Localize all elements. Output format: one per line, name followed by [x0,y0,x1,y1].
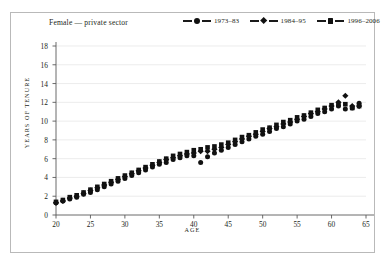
data-point-square [178,152,183,157]
data-point-square [336,102,341,107]
data-point-square [129,170,134,175]
y-tick-label: 14 [28,79,48,88]
data-point-square [150,162,155,167]
y-tick-label: 6 [28,154,48,163]
data-point-square [309,110,314,115]
data-point-square [343,102,348,107]
data-point-square [143,165,148,170]
data-point-square [322,106,327,111]
x-tick-label: 65 [354,220,378,229]
x-tick-label: 20 [44,220,68,229]
data-point-square [247,133,252,138]
data-point-square [61,198,66,203]
scatter-plot [11,13,376,254]
y-tick-label: 12 [28,98,48,107]
data-point-circle [198,160,203,165]
data-point-square [191,148,196,153]
y-tick-label: 16 [28,60,48,69]
data-point-square [95,185,100,190]
data-point-square [274,123,279,128]
y-tick-label: 4 [28,173,48,182]
data-point-square [54,200,59,205]
data-point-square [157,159,162,164]
data-point-square [288,118,293,123]
data-point-square [267,125,272,130]
data-point-diamond [342,93,348,99]
y-tick-label: 0 [28,211,48,220]
data-point-square [329,103,334,108]
x-tick-label: 30 [113,220,137,229]
data-point-square [350,106,355,111]
data-point-square [109,179,114,184]
data-point-square [198,147,203,152]
data-point-square [302,113,307,118]
plot-area-wrapper: YEARS OF TENURE AGE 02468101214161820253… [11,13,374,252]
data-point-square [164,156,169,161]
x-tick-label: 60 [320,220,344,229]
data-point-square [212,144,217,149]
data-point-square [226,140,231,145]
data-point-square [260,127,265,132]
data-point-square [116,176,121,181]
data-point-square [123,173,128,178]
data-point-square [74,193,79,198]
x-tick-label: 35 [147,220,171,229]
data-point-square [171,154,176,159]
x-tick-label: 55 [285,220,309,229]
data-point-circle [205,154,210,159]
data-point-square [205,145,210,150]
data-point-square [88,187,93,192]
data-point-square [295,115,300,120]
data-point-square [102,182,107,187]
y-tick-label: 8 [28,135,48,144]
y-tick-label: 18 [28,42,48,51]
y-tick-label: 2 [28,192,48,201]
data-point-square [136,168,141,173]
data-point-square [185,150,190,155]
data-point-square [281,120,286,125]
x-tick-label: 45 [216,220,240,229]
data-point-square [81,190,86,195]
data-point-circle [343,106,348,111]
x-tick-label: 50 [251,220,275,229]
data-point-square [253,130,258,135]
data-point-square [67,195,72,200]
y-tick-label: 10 [28,117,48,126]
x-tick-label: 40 [182,220,206,229]
data-point-square [240,135,245,140]
data-point-square [315,108,320,113]
data-point-square [233,138,238,143]
data-point-square [357,104,362,109]
x-tick-label: 25 [78,220,102,229]
data-point-square [219,142,224,147]
figure-panel: Female — private sector 1973–831984–9519… [10,12,375,253]
